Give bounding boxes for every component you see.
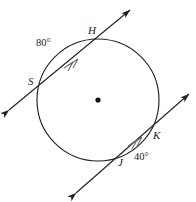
point-label-s: S <box>28 76 34 87</box>
center-point-dot <box>95 97 100 102</box>
tick-marks-secant-sh <box>64 59 78 71</box>
arc-measure-label-sh: 80° <box>36 38 51 49</box>
geometry-figure-svg <box>0 0 196 202</box>
arc-measure-label-jk: 40° <box>134 152 149 163</box>
point-label-j: J <box>118 157 123 168</box>
point-label-h: H <box>88 25 96 36</box>
point-label-k: K <box>153 130 160 141</box>
tick-marks-secant-jk <box>128 137 142 149</box>
geometry-diagram-canvas: H S K J 80° 40° <box>0 0 196 202</box>
secant-line-sh <box>9 10 130 110</box>
